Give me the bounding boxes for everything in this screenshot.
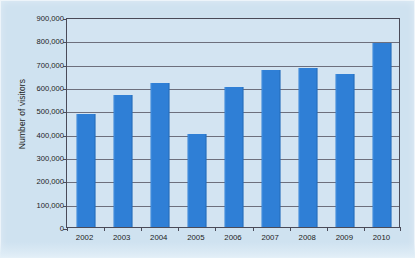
y-axis-tick-label: 900,000	[37, 14, 64, 23]
x-axis-tick-label: 2007	[261, 233, 278, 242]
bar-slot	[178, 19, 215, 227]
bar[interactable]	[336, 74, 355, 227]
bar-slot	[104, 19, 141, 227]
bar-slot	[327, 19, 364, 227]
bar[interactable]	[373, 43, 392, 227]
x-axis-tick-label: 2005	[187, 233, 204, 242]
bar-slot	[67, 19, 104, 227]
x-axis-tick-label: 2009	[336, 233, 353, 242]
bar[interactable]	[76, 114, 95, 227]
y-axis-tick-labels: 0100,000200,000300,000400,000500,000600,…	[24, 18, 64, 228]
bar-slot	[215, 19, 252, 227]
bar[interactable]	[150, 83, 169, 227]
plot-area	[66, 18, 400, 228]
x-axis-tick-label: 2003	[113, 233, 130, 242]
x-axis-tick-mark	[400, 227, 401, 231]
x-axis-tick-label: 2008	[299, 233, 316, 242]
y-axis-tick-label: 700,000	[37, 60, 64, 69]
y-axis-tick-label: 100,000	[37, 200, 64, 209]
x-axis-tick-label: 2002	[76, 233, 93, 242]
y-axis-tick-label: 300,000	[37, 154, 64, 163]
bar-chart-figure: Number of visitors 0100,000200,000300,00…	[0, 0, 415, 258]
y-axis-tick-label: 0	[60, 224, 64, 233]
bar[interactable]	[113, 95, 132, 227]
y-axis-tick-label: 500,000	[37, 107, 64, 116]
x-axis-tick-label: 2006	[224, 233, 241, 242]
bar[interactable]	[187, 134, 206, 227]
bar[interactable]	[262, 70, 281, 228]
bar[interactable]	[224, 87, 243, 227]
bar-slot	[290, 19, 327, 227]
x-axis-tick-label: 2004	[150, 233, 167, 242]
bars-layer	[67, 19, 399, 227]
y-axis-tick-label: 800,000	[37, 37, 64, 46]
bar-slot	[364, 19, 401, 227]
x-axis-tick-labels: 200220032004200520062007200820092010	[66, 231, 400, 245]
y-axis-tick-label: 200,000	[37, 177, 64, 186]
bar-slot	[141, 19, 178, 227]
y-axis-tick-label: 600,000	[37, 84, 64, 93]
x-axis-tick-label: 2010	[373, 233, 390, 242]
y-axis-tick-label: 400,000	[37, 130, 64, 139]
bar-slot	[253, 19, 290, 227]
bar[interactable]	[299, 68, 318, 227]
